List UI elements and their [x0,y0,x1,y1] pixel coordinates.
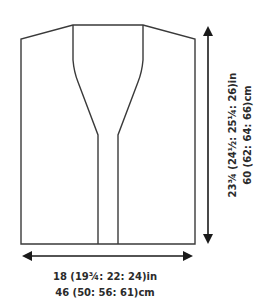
arrow-down-icon [203,234,213,244]
width-imperial-label: 18 (19¾: 22: 24)in [0,270,210,284]
width-metric-label: 46 (50: 56: 61)cm [0,286,210,300]
arrow-up-icon [203,26,213,36]
left-neck-edge [73,25,98,244]
length-imperial-label: 23¾ (24½: 25¼: 26)in [226,45,240,225]
arrow-right-icon [183,251,193,261]
garment-outline [21,25,195,244]
length-metric-label: 60 (62: 64: 66)cm [241,45,255,225]
length-arrow [203,26,213,244]
arrow-left-icon [22,251,32,261]
right-neck-edge [118,25,143,244]
width-arrow [22,251,193,261]
